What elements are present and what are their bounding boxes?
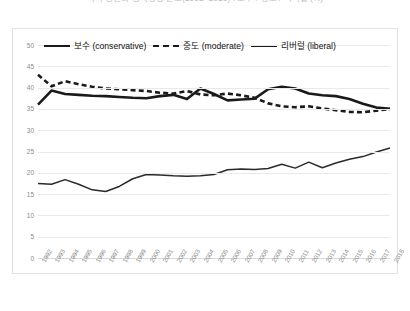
series-line-0	[38, 87, 390, 109]
legend-entry-0[interactable]: 보수 (conservative)	[44, 41, 146, 51]
gridline-10	[38, 215, 390, 216]
gridline-35	[38, 109, 390, 110]
y-tick-5: 5	[12, 233, 34, 240]
gridline-45	[38, 66, 390, 67]
y-tick-15: 15	[12, 191, 34, 198]
legend-swatch-icon-0	[44, 45, 70, 47]
y-tick-25: 25	[12, 148, 34, 155]
y-tick-35: 35	[12, 105, 34, 112]
series-line-2	[38, 148, 390, 191]
y-tick-40: 40	[12, 84, 34, 91]
y-tick-10: 10	[12, 212, 34, 219]
y-tick-50: 50	[12, 42, 34, 49]
legend-entry-2[interactable]: 리버럴 (liberal)	[251, 41, 336, 51]
legend-label-1: 중도 (moderate)	[183, 41, 243, 51]
x-axis: 1992199319941995199619971998199920002001…	[38, 260, 390, 306]
gridline-25	[38, 152, 390, 153]
plot-area	[38, 45, 390, 258]
chart-title: 미국 성인의 정치성향 분포(1992~2018) : 보수 / 중도 / 리버…	[0, 0, 410, 3]
gridline-40	[38, 88, 390, 89]
y-tick-0: 0	[12, 255, 34, 262]
gridline-15	[38, 194, 390, 195]
legend-swatch-icon-1	[153, 45, 179, 47]
y-axis: 50454035302520151050	[8, 45, 34, 258]
gridline-5	[38, 237, 390, 238]
y-tick-30: 30	[12, 127, 34, 134]
gridline-20	[38, 173, 390, 174]
gridline-30	[38, 130, 390, 131]
political-ideology-line-chart: 미국 성인의 정치성향 분포(1992~2018) : 보수 / 중도 / 리버…	[0, 0, 410, 311]
chart-legend: 보수 (conservative)중도 (moderate)리버럴 (liber…	[44, 41, 336, 51]
legend-label-0: 보수 (conservative)	[74, 41, 146, 51]
y-tick-45: 45	[12, 63, 34, 70]
legend-swatch-icon-2	[251, 46, 277, 47]
legend-label-2: 리버럴 (liberal)	[281, 41, 336, 51]
y-tick-20: 20	[12, 169, 34, 176]
legend-entry-1[interactable]: 중도 (moderate)	[153, 41, 243, 51]
